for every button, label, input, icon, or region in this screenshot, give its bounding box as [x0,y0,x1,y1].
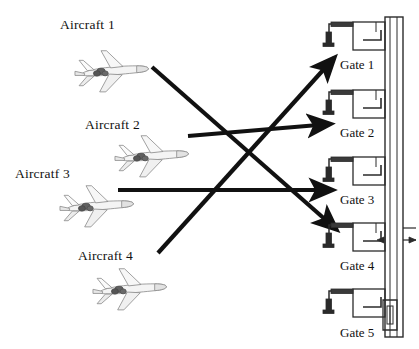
gate-2-bridge-cab-foot [323,111,334,115]
gate-2-stand [323,90,385,118]
gate-5-stand [323,289,385,317]
gate-4-bridge-cab-foot [323,244,334,248]
aircraft-2-label: Aircraft 2 [85,117,140,133]
gate-3-gate-door [363,165,381,175]
aircraft-1-label: Aircraft 1 [60,17,115,33]
aircraft-3-airplane-icon [55,183,139,231]
gate-1-jet-bridge-arm [331,22,353,27]
gate-3-jet-bridge-arm [331,157,353,162]
gate-3-label: Gate 3 [340,192,374,208]
gate-4-jet-bridge-arm [331,223,353,228]
aircraft-1-airplane-icon [70,48,154,96]
aircraft-4-airplane-icon [88,266,172,314]
gate-2-gate-door [363,98,381,108]
concourse-outer-wall [385,17,403,337]
aircraft-2-airplane-icon [110,133,194,181]
gate-2-jet-bridge-arm [331,90,353,95]
gate-3-bridge-cab-foot [323,178,334,182]
gate-4-stand [323,223,385,251]
gate-1-label: Gate 1 [340,57,374,73]
gate-2-label: Gate 2 [340,125,374,141]
concourse-tick-arrow [409,237,416,243]
diagram-canvas: Aircraft 1Aircraft 2Aircratf 3Aircraft 4… [0,0,419,349]
gate-5-gate-door [363,297,381,307]
gate-1-gate-door [363,30,381,40]
aircraft-4-label: Aircraft 4 [78,248,133,264]
gate-5-jet-bridge-arm [331,289,353,294]
gate-3-stand [323,157,385,185]
gate-5-label: Gate 5 [340,325,374,341]
gate-5-bridge-cab-foot [323,310,334,314]
gate-1-stand [323,22,385,50]
aircraft-3-label: Aircratf 3 [15,166,70,182]
gate-1-bridge-cab-foot [323,43,334,47]
gate-4-label: Gate 4 [340,258,374,274]
